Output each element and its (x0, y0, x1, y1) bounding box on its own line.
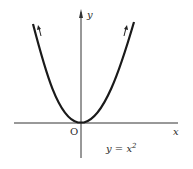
parabola-curve (33, 22, 134, 123)
left-arrow-icon (37, 25, 41, 30)
origin-label: O (70, 127, 78, 137)
y-axis-label: y (87, 10, 93, 20)
x-axis-label: x (173, 127, 179, 137)
right-arrow-icon (124, 25, 128, 30)
equation-label: y = x2 (106, 143, 137, 154)
parabola-diagram (0, 0, 193, 169)
y-axis-arrow-icon (79, 9, 83, 18)
equation-lhs: y (106, 143, 112, 154)
equation-exponent: 2 (132, 142, 136, 150)
equation-equals: = (115, 143, 123, 154)
